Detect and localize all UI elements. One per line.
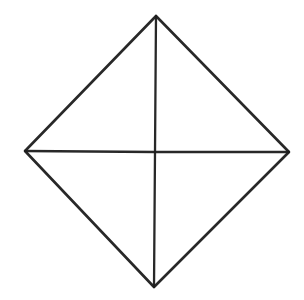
figure-canvas [0,0,304,300]
horizontal-diagonal [25,151,289,152]
diamond-diagram [0,0,304,300]
